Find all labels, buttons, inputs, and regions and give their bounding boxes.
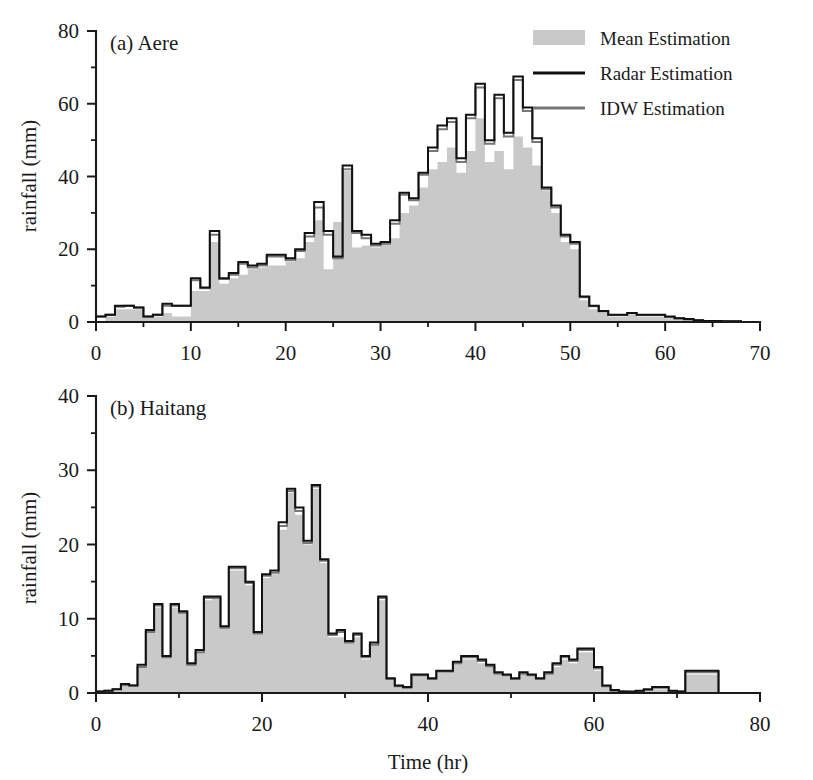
x-tick-label: 60 (584, 712, 605, 736)
panel-a-title: (a) Aere (110, 31, 178, 55)
x-tick-label: 30 (370, 341, 391, 365)
y-tick-label: 80 (58, 19, 79, 43)
legend-swatch-mean-estimation (533, 30, 585, 45)
x-tick-label: 20 (252, 712, 273, 736)
rainfall-figure: 010203040506070 020406080 (a) Aere rainf… (0, 0, 813, 780)
series-radar-estimation-line (96, 485, 760, 693)
y-tick-label: 60 (58, 92, 79, 116)
y-tick-label: 20 (58, 533, 79, 557)
legend-label-idw-estimation: IDW Estimation (600, 98, 725, 119)
panel-a-y-tick-labels: 020406080 (58, 19, 79, 334)
y-tick-label: 40 (58, 165, 79, 189)
rainfall-comparison-chart: 010203040506070 020406080 (a) Aere rainf… (0, 0, 813, 780)
x-tick-label: 70 (750, 341, 771, 365)
panel-b-series-group (96, 485, 760, 693)
panel-b-haitang: 020406080 010203040 (b) Haitang rainfall… (17, 384, 771, 774)
panel-b-y-tick-labels: 010203040 (58, 384, 79, 705)
y-tick-label: 10 (58, 607, 79, 631)
panel-b-title: (b) Haitang (110, 396, 207, 420)
panel-a-x-tick-labels: 010203040506070 (91, 341, 771, 365)
y-tick-label: 40 (58, 384, 79, 408)
x-tick-label: 0 (91, 712, 102, 736)
x-tick-label: 20 (275, 341, 296, 365)
x-tick-label: 40 (418, 712, 439, 736)
x-tick-label: 50 (560, 341, 581, 365)
legend-label-radar-estimation: Radar Estimation (600, 63, 733, 84)
x-tick-label: 60 (655, 341, 676, 365)
panel-a-y-axis-label: rainfall (mm) (17, 120, 41, 233)
legend-label-mean-estimation: Mean Estimation (600, 28, 731, 49)
legend: Mean Estimation Radar Estimation IDW Est… (533, 28, 733, 119)
y-tick-label: 30 (58, 458, 79, 482)
panel-b-y-axis-label: rainfall (mm) (17, 492, 41, 605)
x-tick-label: 0 (91, 341, 102, 365)
x-axis-label: Time (hr) (388, 750, 468, 774)
y-tick-label: 0 (69, 310, 80, 334)
y-tick-label: 0 (69, 681, 80, 705)
panel-b-axes (96, 396, 760, 693)
x-tick-label: 40 (465, 341, 486, 365)
x-tick-label: 10 (180, 341, 201, 365)
panel-b-x-tick-labels: 020406080 (91, 712, 771, 736)
y-tick-label: 20 (58, 237, 79, 261)
x-tick-label: 80 (750, 712, 771, 736)
